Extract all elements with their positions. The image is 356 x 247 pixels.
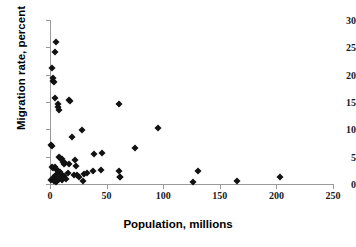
x-tick-mark — [50, 185, 51, 189]
x-tick-mark — [220, 185, 221, 189]
x-tick-mark — [163, 185, 164, 189]
y-axis-title: Migration rate, percent — [15, 0, 27, 153]
x-tick-label: 100 — [156, 190, 171, 201]
x-tick-mark — [276, 185, 277, 189]
plot-area — [50, 20, 333, 184]
x-tick-label: 200 — [269, 190, 284, 201]
x-tick-label: 250 — [326, 190, 341, 201]
scatter-chart: 051015202530 050100150200250 Migration r… — [0, 0, 356, 247]
x-axis-title: Population, millions — [0, 218, 356, 230]
x-tick-mark — [333, 185, 334, 189]
x-tick-label: 50 — [102, 190, 112, 201]
x-tick-label: 0 — [48, 190, 53, 201]
x-tick-mark — [107, 185, 108, 189]
x-tick-label: 150 — [212, 190, 227, 201]
